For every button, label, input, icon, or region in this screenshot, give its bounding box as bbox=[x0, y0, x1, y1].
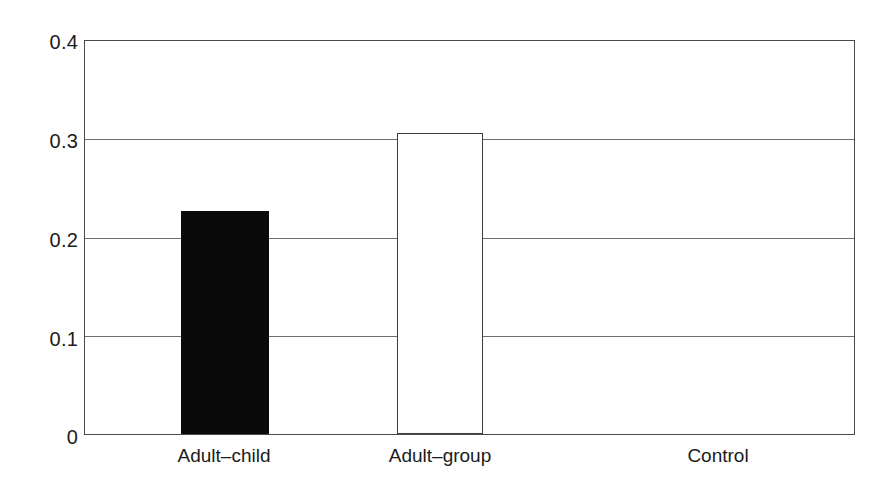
y-axis: 0.4 0.3 0.2 0.1 0 bbox=[0, 0, 78, 490]
y-tick-label-0: 0 bbox=[67, 427, 78, 447]
x-tick-label-adult-child: Adult–child bbox=[178, 446, 271, 465]
x-tick-label-control: Control bbox=[687, 446, 748, 465]
bar-adult-group bbox=[397, 133, 483, 434]
y-tick-label-0.2: 0.2 bbox=[50, 230, 78, 250]
bar-chart-figure: 0.4 0.3 0.2 0.1 0 Adult–child Adult–grou… bbox=[0, 0, 896, 490]
y-tick-label-0.3: 0.3 bbox=[50, 131, 78, 151]
y-tick-label-0.4: 0.4 bbox=[50, 32, 78, 52]
bar-adult-child bbox=[181, 211, 269, 434]
x-tick-label-adult-group: Adult–group bbox=[389, 446, 491, 465]
y-tick-label-0.1: 0.1 bbox=[50, 329, 78, 349]
plot-area bbox=[84, 40, 855, 435]
